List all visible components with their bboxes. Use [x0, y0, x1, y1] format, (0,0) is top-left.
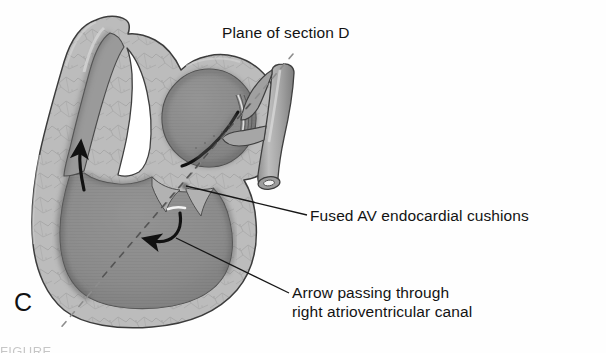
figure-illustration: Plane of section D Fused AV endocardial …	[0, 0, 606, 353]
cut-off-caption-fragment: FIGURE	[0, 344, 606, 353]
label-arrow-canal-line1: Arrow passing through	[292, 284, 449, 301]
label-arrow-passing-through-right-av-canal: Arrow passing through right atrioventric…	[292, 283, 592, 321]
label-arrow-canal-line2: right atrioventricular canal	[292, 303, 472, 320]
label-fused-av-endocardial-cushions: Fused AV endocardial cushions	[310, 207, 529, 225]
label-plane-of-section: Plane of section D	[222, 24, 350, 42]
panel-letter-c: C	[14, 288, 32, 317]
